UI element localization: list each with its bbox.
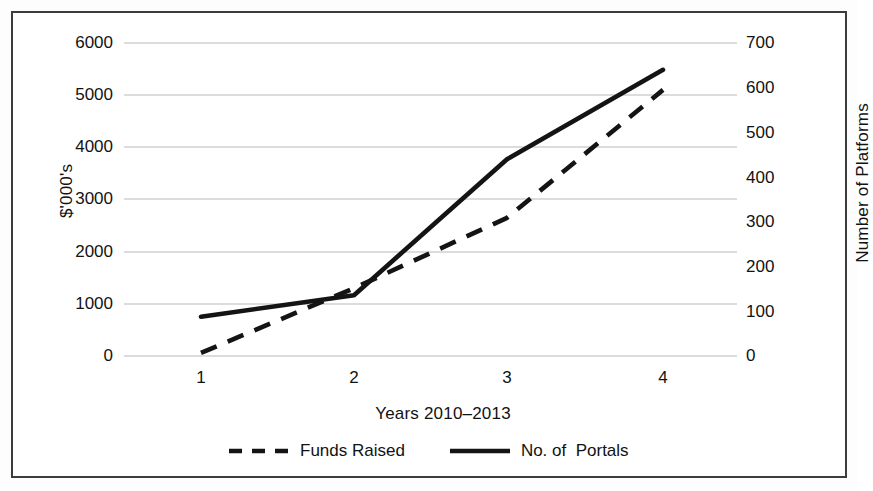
y-axis-tick-0: 0 xyxy=(51,346,113,366)
x-axis-tick-1: 1 xyxy=(186,368,216,388)
y-axis-title: $'000's xyxy=(57,131,77,251)
x-axis-tick-2: 2 xyxy=(339,368,369,388)
y2-axis-tick-0: 0 xyxy=(746,346,808,366)
y2-axis-tick-200: 200 xyxy=(746,257,808,277)
y2-axis-tick-400: 400 xyxy=(746,168,808,188)
y-axis-tick-1000: 1000 xyxy=(51,294,113,314)
chart-frame: 6000 5000 4000 3000 2000 1000 0 700 600 … xyxy=(11,11,847,478)
legend-item-no-of-portals: No. of Portals xyxy=(449,441,629,461)
y-axis-tick-6000: 6000 xyxy=(51,33,113,53)
y-axis-tick-5000: 5000 xyxy=(51,85,113,105)
x-axis-tick-4: 4 xyxy=(648,368,678,388)
y2-axis-tick-100: 100 xyxy=(746,302,808,322)
y2-axis-tick-600: 600 xyxy=(746,78,808,98)
y2-axis-tick-700: 700 xyxy=(746,33,808,53)
gridlines xyxy=(124,43,737,356)
x-axis-title: Years 2010–2013 xyxy=(283,404,603,424)
y2-axis-tick-500: 500 xyxy=(746,123,808,143)
y2-axis-title: Number of Platforms xyxy=(853,73,873,293)
legend-label-no-of-portals: No. of Portals xyxy=(521,441,629,461)
solid-line-swatch xyxy=(449,442,511,460)
x-axis-tick-3: 3 xyxy=(492,368,522,388)
series-funds-raised-line xyxy=(201,90,663,353)
legend-item-funds-raised: Funds Raised xyxy=(228,441,405,461)
series-no-of-portals-line xyxy=(201,70,663,317)
y2-axis-tick-300: 300 xyxy=(746,212,808,232)
dashed-line-swatch xyxy=(228,442,290,460)
legend-label-funds-raised: Funds Raised xyxy=(300,441,405,461)
chart-legend: Funds Raised No. of Portals xyxy=(228,441,629,461)
